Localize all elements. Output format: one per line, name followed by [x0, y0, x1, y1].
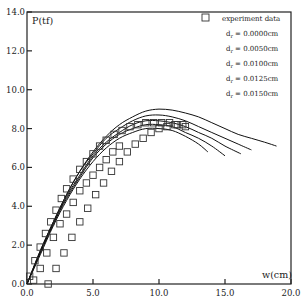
experiment-point [44, 250, 50, 256]
model-curve [27, 115, 251, 284]
experiment-point [70, 199, 76, 205]
y-tick-label: 14.0 [6, 7, 25, 17]
experiment-point [100, 180, 106, 186]
experiment-point [90, 172, 96, 178]
x-tick-label: 10.0 [150, 288, 169, 298]
experiment-point [77, 219, 83, 225]
experiment-point [103, 156, 109, 162]
x-tick-label: 0.0 [20, 288, 34, 298]
model-curve [27, 120, 241, 284]
experiment-point [69, 234, 75, 240]
experiment-point [116, 158, 122, 164]
experiment-point [61, 250, 67, 256]
y-tick-label: 6.0 [11, 162, 25, 172]
experiment-point [77, 188, 83, 194]
experiment-point [85, 205, 91, 211]
x-tick-label: 5.0 [86, 288, 100, 298]
experiment-point [148, 129, 154, 135]
experiment-markers [26, 120, 188, 288]
experiment-point [96, 164, 102, 170]
experiment-point [140, 135, 146, 141]
legend-label: dr = 0.0125cm [226, 75, 279, 84]
experiment-point [57, 221, 63, 227]
experiment-point [110, 149, 116, 155]
experiment-point [108, 168, 114, 174]
legend-label: experiment data [222, 15, 280, 23]
experiment-point [37, 265, 43, 271]
experiment-point [50, 234, 56, 240]
x-tick-label: 15.0 [216, 288, 235, 298]
model-curve [27, 128, 208, 284]
y-tick-label: 0.0 [11, 279, 25, 289]
legend-label: dr = 0.0100cm [226, 60, 279, 69]
experiment-point [116, 143, 122, 149]
y-tick-label: 10.0 [6, 85, 25, 95]
legend: experiment datadr = 0.0000cmdr = 0.0050c… [202, 14, 280, 99]
y-tick-label: 2.0 [11, 240, 25, 250]
legend-label: dr = 0.0150cm [226, 90, 279, 99]
load-deflection-chart: 0.05.010.015.020.00.02.04.06.08.010.012.… [0, 0, 306, 302]
x-axis-title: w(cm) [262, 269, 292, 280]
experiment-point [124, 149, 130, 155]
experiment-point [92, 191, 98, 197]
experiment-point [63, 211, 69, 217]
legend-square-icon [202, 14, 209, 21]
y-tick-label: 12.0 [6, 46, 25, 56]
x-tick-label: 20.0 [282, 288, 301, 298]
legend-label: dr = 0.0050cm [226, 45, 279, 54]
experiment-point [53, 265, 59, 271]
experiment-point [83, 180, 89, 186]
legend-label: dr = 0.0000cm [226, 30, 279, 39]
y-tick-label: 8.0 [11, 124, 25, 134]
y-tick-label: 4.0 [11, 201, 25, 211]
experiment-point [30, 277, 36, 283]
y-axis-title: P(tf) [32, 15, 53, 26]
experiment-point [132, 141, 138, 147]
